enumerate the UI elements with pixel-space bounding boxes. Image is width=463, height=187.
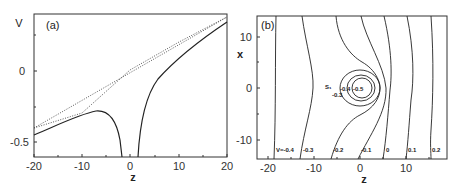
contour-minus-0.4 — [274, 16, 276, 159]
contour-0.2 — [431, 16, 433, 159]
panel-b-ytick-label: -10 — [236, 134, 252, 146]
panel-b-ytick-label: 10 — [240, 31, 252, 43]
contour-label: V=-0.4 — [276, 147, 295, 153]
panel-b-ytick-label: 0 — [246, 82, 252, 94]
contour-0.1 — [406, 16, 413, 159]
panel-b-xlabel: z — [361, 173, 367, 185]
contour-label-center: -0.3 — [332, 92, 343, 98]
panel-a: -20 -10 0 10 20 0 -0.5 z V (a) — [10, 14, 233, 183]
figure: -20 -10 0 10 20 0 -0.5 z V (a) — [0, 0, 463, 187]
contour-0 — [383, 16, 391, 159]
panel-a-ytick-label: 0 — [19, 65, 25, 77]
panel-a-label: (a) — [46, 19, 59, 31]
contour-label-center: -0.5 — [353, 86, 364, 92]
panel-a-xtick-label: -10 — [74, 160, 90, 172]
panel-a-xtick-label: 10 — [173, 160, 185, 172]
panel-b-label: (b) — [261, 19, 274, 31]
solid-curve-right — [138, 22, 227, 157]
panel-a-frame — [34, 14, 227, 157]
panel-a-xlabel: z — [130, 171, 136, 183]
solid-curve-left — [34, 111, 122, 157]
panel-b-xtick-label: -10 — [306, 162, 322, 174]
panel-b-ylabel: x — [237, 48, 244, 60]
contour-label: 0.1 — [408, 147, 417, 153]
panel-b-xtick-label: 10 — [400, 162, 412, 174]
panel-a-xticks — [34, 35, 227, 157]
panel-a-xtick-label: -20 — [26, 160, 42, 172]
panel-a-xtick-label: 20 — [221, 160, 233, 172]
panel-b: -20 -10 0 10 10 0 -10 z x (b) — [236, 16, 447, 185]
contour-minus-0.3 — [300, 16, 313, 159]
contour-label: -0.3 — [303, 147, 314, 153]
contour-label: -0.2 — [333, 147, 344, 153]
panel-b-xtick-label: -20 — [260, 162, 276, 174]
saddle-label: S₁ — [325, 84, 332, 90]
contour-label: 0.2 — [432, 147, 441, 153]
contour-label: -0.1 — [361, 147, 372, 153]
contour-label: 0 — [386, 147, 390, 153]
panel-a-ytick-label: -0.5 — [10, 136, 29, 148]
panel-a-ylabel: V — [15, 17, 23, 29]
dotted-linear-line — [34, 17, 227, 128]
